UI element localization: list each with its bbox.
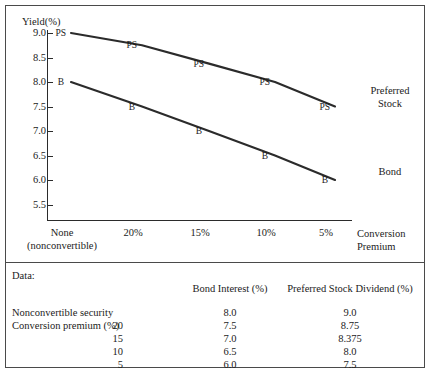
y-tick-label: 8.0 bbox=[6, 77, 46, 87]
table-cell-preferred: 7.5 bbox=[343, 359, 356, 370]
data-caption: Data: bbox=[12, 270, 35, 281]
y-tick-label: 7.5 bbox=[6, 102, 46, 112]
table-cell-preferred: 8.0 bbox=[343, 346, 356, 357]
figure-root: Yield(%) 9.0 8.5 8.0 7.5 7.0 6.5 6.0 5.5… bbox=[0, 0, 435, 378]
ps-point-label: PS bbox=[126, 40, 137, 50]
preferred-stock-series-line bbox=[71, 33, 335, 107]
y-axis-line bbox=[47, 30, 48, 220]
y-tick-label: 8.5 bbox=[6, 53, 46, 63]
ps-point-label: PS bbox=[319, 102, 330, 112]
y-tick-mark bbox=[47, 131, 53, 132]
table-cell-bond: 7.5 bbox=[223, 320, 236, 331]
y-tick-mark bbox=[47, 205, 53, 206]
table-cell-preferred: 8.375 bbox=[338, 333, 362, 344]
data-table-panel: Data: Bond Interest (%) Preferred Stock … bbox=[0, 262, 435, 378]
table-cell-bond: 8.0 bbox=[223, 307, 236, 318]
legend-bond: Bond bbox=[355, 165, 425, 178]
x-tick-label: 10% bbox=[256, 227, 275, 238]
ps-point-label: PS bbox=[259, 77, 270, 87]
y-tick-mark bbox=[47, 156, 53, 157]
y-tick-mark bbox=[47, 82, 53, 83]
table-cell-bond: 6.5 bbox=[223, 346, 236, 357]
table-cell-preferred: 8.75 bbox=[341, 320, 359, 331]
bond-point-label: B bbox=[322, 175, 328, 185]
table-header-bond-interest: Bond Interest (%) bbox=[192, 283, 267, 294]
bond-series-line bbox=[71, 82, 335, 180]
table-cell-preferred: 9.0 bbox=[343, 307, 356, 318]
chart-panel: Yield(%) 9.0 8.5 8.0 7.5 7.0 6.5 6.0 5.5… bbox=[0, 0, 435, 262]
x-axis-title-line1: Conversion bbox=[357, 227, 405, 240]
bond-point-label: B bbox=[129, 102, 135, 112]
x-tick-sublabel: (nonconvertible) bbox=[27, 240, 97, 251]
y-tick-label: 6.0 bbox=[6, 175, 46, 185]
ps-point-label: PS bbox=[55, 28, 66, 38]
table-row-label: Nonconvertible security bbox=[12, 307, 113, 318]
table-header-preferred-dividend: Preferred Stock Dividend (%) bbox=[287, 283, 413, 294]
y-tick-mark bbox=[47, 180, 53, 181]
legend-preferred-stock-line1: Preferred bbox=[355, 84, 425, 97]
y-axis-title: Yield(%) bbox=[22, 16, 61, 27]
x-tick-label: None bbox=[51, 227, 74, 238]
x-tick-label: 20% bbox=[123, 227, 142, 238]
bond-point-label: B bbox=[262, 151, 268, 161]
y-tick-label: 5.5 bbox=[6, 200, 46, 210]
table-row-premium: 15 bbox=[103, 333, 123, 344]
series-plot-area bbox=[0, 0, 435, 262]
x-axis-title-line2: Premium bbox=[357, 240, 405, 253]
bond-point-label: B bbox=[58, 77, 64, 87]
x-tick-label: 5% bbox=[319, 227, 333, 238]
bond-point-label: B bbox=[196, 126, 202, 136]
table-cell-bond: 7.0 bbox=[223, 333, 236, 344]
y-tick-mark bbox=[47, 58, 53, 59]
ps-point-label: PS bbox=[193, 59, 204, 69]
table-row-premium: 20 bbox=[103, 320, 123, 331]
y-tick-label: 9.0 bbox=[6, 28, 46, 38]
x-axis-title: Conversion Premium bbox=[357, 227, 405, 253]
y-tick-label: 7.0 bbox=[6, 126, 46, 136]
y-tick-mark bbox=[47, 107, 53, 108]
y-tick-label: 6.5 bbox=[6, 151, 46, 161]
x-tick-label: 15% bbox=[190, 227, 209, 238]
legend-preferred-stock-line2: Stock bbox=[355, 97, 425, 110]
x-axis-line bbox=[47, 220, 352, 221]
table-row-premium: 10 bbox=[103, 346, 123, 357]
legend-preferred-stock: Preferred Stock bbox=[355, 84, 425, 110]
y-tick-mark bbox=[47, 33, 53, 34]
table-cell-bond: 6.0 bbox=[223, 359, 236, 370]
table-row-premium: 5 bbox=[103, 359, 123, 370]
